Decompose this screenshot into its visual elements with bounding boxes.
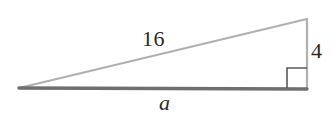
right-angle-marker-icon — [287, 68, 307, 88]
hypotenuse-length-label: 16 — [142, 28, 165, 50]
base-leg-segment — [19, 88, 307, 89]
base-leg-length-label: a — [159, 92, 170, 114]
right-triangle-figure: 16 4 a — [0, 0, 334, 118]
vertical-leg-length-label: 4 — [311, 40, 322, 62]
